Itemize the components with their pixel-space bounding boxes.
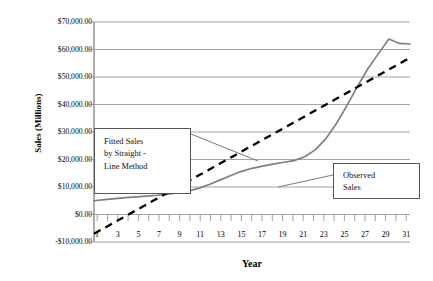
x-tick-label: 23 [315,231,333,239]
x-tick-label: 13 [212,231,230,239]
fitted-annotation-line: by Straight - [104,148,190,160]
sales-trend-chart: Sales (Millions) $70,000.00 $60,000.00 $… [0,0,433,281]
x-tick-label: 11 [191,231,209,239]
x-tick-label: 3 [109,231,127,239]
x-tick-label: 21 [294,231,312,239]
fitted-annotation-line: Fitted Sales [104,136,190,148]
fitted-annotation-line: Line Method [104,161,190,173]
x-tick-label: 27 [356,231,374,239]
fitted-sales-annotation: Fitted Sales by Straight - Line Method [94,128,191,194]
observed-sales-legend: Observed Sales [333,163,420,199]
x-tick-label: 1 [88,231,106,239]
x-tick-label: 15 [232,231,250,239]
observed-legend-line: Observed [343,170,419,182]
x-tick-label: 31 [397,231,415,239]
x-tick-label: 5 [129,231,147,239]
x-tick-label: 7 [150,231,168,239]
x-tick-label: 17 [253,231,271,239]
x-axis-title: Year [94,258,410,269]
x-tick-label: 29 [377,231,395,239]
observed-legend-line: Sales [343,182,419,194]
observed-legend-leader [278,175,333,187]
x-tick-label: 19 [274,231,292,239]
x-axis-ticks [97,215,406,222]
x-tick-label: 9 [171,231,189,239]
x-tick-label: 25 [335,231,353,239]
